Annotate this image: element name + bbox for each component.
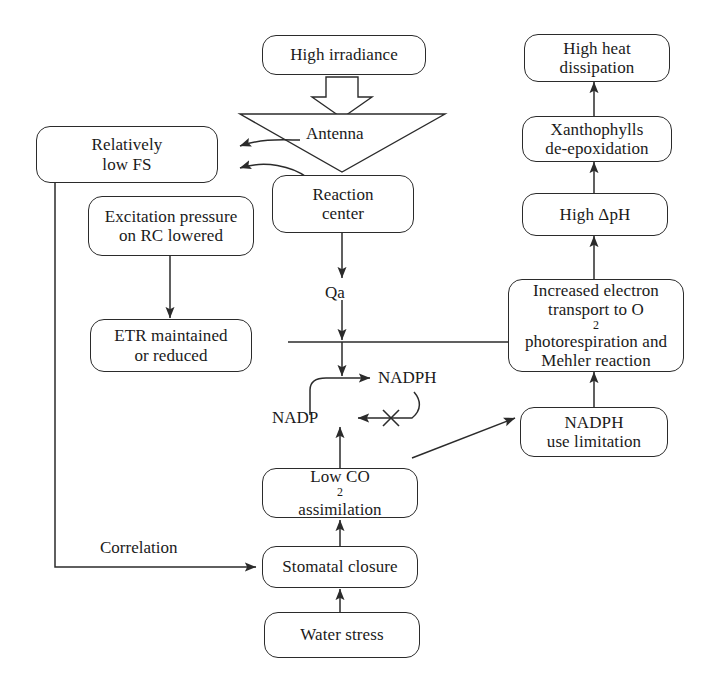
node-nadph-use-limitation-line1: NADPH: [547, 413, 641, 432]
node-stomatal-closure[interactable]: Stomatal closure: [262, 546, 418, 588]
node-electron-transport-line3: photorespiration and: [525, 332, 667, 351]
node-excitation-pressure-line1: Excitation pressure: [105, 207, 238, 226]
node-xanthophylls-line1: Xanthophylls: [545, 120, 648, 139]
node-antenna-label: Antenna: [306, 124, 364, 144]
node-high-dph[interactable]: High ΔpH: [522, 193, 668, 236]
node-reaction-center-line2: center: [312, 204, 373, 223]
blocked-x-marker: [383, 410, 399, 426]
node-high-dph-label: High ΔpH: [560, 205, 631, 224]
curve-nadph-to-nadp: [358, 392, 419, 418]
block-arrow-irradiance-to-antenna: [312, 77, 372, 118]
node-nadp-label: NADP: [272, 408, 318, 428]
edge-label-correlation: Correlation: [100, 538, 177, 558]
node-etr-maintained[interactable]: ETR maintained or reduced: [90, 319, 252, 372]
node-low-co2-assimilation[interactable]: Low CO2 assimilation: [262, 468, 418, 518]
o2-subscript: 2: [525, 319, 667, 332]
node-reaction-center[interactable]: Reaction center: [272, 175, 414, 233]
node-stomatal-closure-label: Stomatal closure: [282, 557, 397, 576]
node-high-irradiance-label: High irradiance: [290, 45, 398, 64]
curve-nadp-to-nadph: [310, 378, 370, 415]
node-high-heat-line1: High heat: [560, 39, 635, 58]
node-electron-transport-line4: Mehler reaction: [525, 351, 667, 370]
node-excitation-pressure[interactable]: Excitation pressure on RC lowered: [88, 196, 254, 256]
node-electron-transport-line1: Increased electron: [525, 281, 667, 300]
node-relatively-low-fs-line2: low FS: [92, 155, 163, 174]
node-high-irradiance[interactable]: High irradiance: [262, 35, 426, 75]
node-etr-maintained-line1: ETR maintained: [114, 326, 227, 345]
node-water-stress-label: Water stress: [300, 625, 383, 644]
node-reaction-center-line1: Reaction: [312, 185, 373, 204]
node-electron-transport-line2: transport to O2: [525, 300, 667, 332]
node-relatively-low-fs-line1: Relatively: [92, 135, 163, 154]
node-nadph-use-limitation-line2: use limitation: [547, 432, 641, 451]
node-relatively-low-fs[interactable]: Relatively low FS: [36, 126, 218, 183]
flowchart-canvas: High irradiance Antenna Reaction center …: [0, 0, 717, 689]
edge-lowco2-to-nadph-use-limitation: [412, 418, 515, 458]
node-low-co2-line1: Low CO2: [298, 467, 381, 499]
co2-subscript: 2: [298, 486, 381, 499]
node-low-co2-line2: assimilation: [298, 500, 381, 519]
node-nadph-label: NADPH: [378, 368, 437, 388]
node-qa-label: Qa: [325, 283, 345, 303]
node-etr-maintained-line2: or reduced: [114, 346, 227, 365]
node-high-heat-line2: dissipation: [560, 58, 635, 77]
node-xanthophylls-line2: de-epoxidation: [545, 139, 648, 158]
node-high-heat-dissipation[interactable]: High heat dissipation: [524, 34, 670, 82]
curve-antenna-to-low-fs: [240, 140, 300, 146]
node-xanthophylls-de-epoxidation[interactable]: Xanthophylls de-epoxidation: [522, 116, 672, 162]
node-nadph-use-limitation[interactable]: NADPH use limitation: [520, 407, 668, 457]
node-increased-electron-transport[interactable]: Increased electron transport to O2 photo…: [508, 279, 684, 372]
node-water-stress[interactable]: Water stress: [264, 612, 420, 658]
node-excitation-pressure-line2: on RC lowered: [105, 226, 238, 245]
